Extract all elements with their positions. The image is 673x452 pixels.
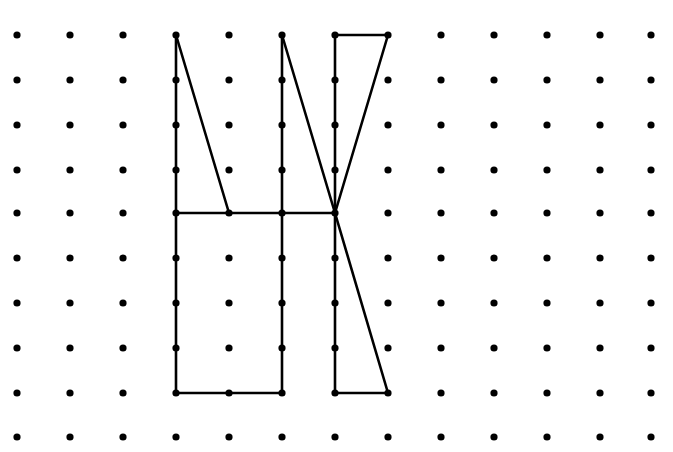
grid-dot xyxy=(331,299,338,306)
grid-dot xyxy=(543,209,550,216)
grid-dot xyxy=(596,121,603,128)
grid-dot xyxy=(119,31,126,38)
grid-dot xyxy=(596,209,603,216)
grid-dot xyxy=(331,344,338,351)
grid-dot xyxy=(437,209,444,216)
grid-dot xyxy=(172,209,179,216)
grid-dot xyxy=(331,433,338,440)
grid-dot xyxy=(647,209,654,216)
grid-dot xyxy=(13,344,20,351)
grid-dot xyxy=(647,121,654,128)
grid-dot xyxy=(543,254,550,261)
grid-dot xyxy=(172,31,179,38)
grid-dot xyxy=(596,299,603,306)
grid-dot xyxy=(384,389,391,396)
grid-dot xyxy=(66,433,73,440)
grid-dot xyxy=(596,254,603,261)
grid-dot xyxy=(384,344,391,351)
grid-dot xyxy=(384,121,391,128)
grid-dot xyxy=(119,344,126,351)
grid-dot xyxy=(331,254,338,261)
grid-dot xyxy=(437,389,444,396)
grid-dot xyxy=(225,166,232,173)
grid-dot xyxy=(13,389,20,396)
grid-dot xyxy=(225,389,232,396)
grid-dot xyxy=(647,76,654,83)
grid-dot xyxy=(543,433,550,440)
grid-dot xyxy=(331,76,338,83)
grid-dot xyxy=(384,166,391,173)
grid-dot xyxy=(543,31,550,38)
segment xyxy=(335,35,388,213)
grid-dot xyxy=(172,166,179,173)
grid-dot xyxy=(384,433,391,440)
grid-dot xyxy=(647,166,654,173)
grid-dot xyxy=(437,344,444,351)
grid-dot xyxy=(172,389,179,396)
grid-dot xyxy=(384,254,391,261)
grid-dot xyxy=(437,76,444,83)
grid-dot xyxy=(278,76,285,83)
grid-dot xyxy=(596,76,603,83)
grid-dot xyxy=(543,344,550,351)
grid-dot xyxy=(225,344,232,351)
grid-dot xyxy=(278,344,285,351)
grid-dot xyxy=(331,121,338,128)
grid-dot xyxy=(647,344,654,351)
grid-dot xyxy=(278,299,285,306)
grid-dot xyxy=(66,299,73,306)
grid-dot xyxy=(225,209,232,216)
segment xyxy=(335,213,388,393)
grid-dot xyxy=(596,389,603,396)
grid-dot xyxy=(596,344,603,351)
grid-dot xyxy=(543,166,550,173)
grid-dot xyxy=(13,76,20,83)
grid-dot xyxy=(278,209,285,216)
grid-dot xyxy=(225,254,232,261)
grid-dot xyxy=(119,389,126,396)
grid-dot xyxy=(172,433,179,440)
grid-dot xyxy=(172,76,179,83)
grid-dot xyxy=(66,31,73,38)
grid-dot xyxy=(490,389,497,396)
grid-dot xyxy=(647,299,654,306)
grid-dot xyxy=(331,209,338,216)
grid-dot xyxy=(331,31,338,38)
grid-dot xyxy=(490,433,497,440)
grid-dot xyxy=(13,31,20,38)
grid-dot xyxy=(331,166,338,173)
grid-dot xyxy=(647,433,654,440)
grid-dot xyxy=(490,344,497,351)
grid-dot xyxy=(543,299,550,306)
grid-dot xyxy=(119,166,126,173)
grid-dot xyxy=(437,166,444,173)
grid-dot xyxy=(490,299,497,306)
grid-dot xyxy=(13,209,20,216)
grid-dot xyxy=(278,166,285,173)
grid-dot xyxy=(225,433,232,440)
grid-dot xyxy=(119,254,126,261)
grid-dot xyxy=(278,389,285,396)
grid-dot xyxy=(66,166,73,173)
grid-dot xyxy=(490,254,497,261)
grid-dot xyxy=(543,389,550,396)
grid-dot xyxy=(331,389,338,396)
grid-dot xyxy=(66,209,73,216)
grid-dot xyxy=(172,344,179,351)
grid-dot xyxy=(647,31,654,38)
grid-dot xyxy=(437,299,444,306)
grid-dot xyxy=(66,254,73,261)
grid-dot xyxy=(66,344,73,351)
grid-dot xyxy=(384,76,391,83)
grid-dot xyxy=(13,254,20,261)
grid-dot xyxy=(172,299,179,306)
grid-dot xyxy=(13,121,20,128)
grid-dot xyxy=(647,254,654,261)
grid-dot xyxy=(384,31,391,38)
grid-dot xyxy=(596,166,603,173)
grid-dot xyxy=(13,299,20,306)
grid-dot xyxy=(66,389,73,396)
grid-dot xyxy=(13,166,20,173)
grid-dot xyxy=(490,209,497,216)
grid-dot xyxy=(437,121,444,128)
